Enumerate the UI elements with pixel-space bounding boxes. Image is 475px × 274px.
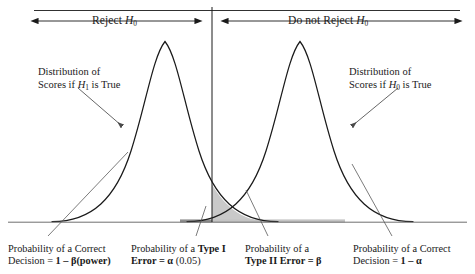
caption-power-pre: Decision = [8, 255, 56, 266]
null-distribution-label: Distribution of Scores if H0 is True [349, 66, 431, 92]
leader-alternative-distribution [78, 88, 122, 126]
leader-power-caption [48, 152, 128, 236]
caption-type-i-formula: Error = α [131, 255, 173, 266]
do-not-reject-label-text: Do not Reject [288, 14, 356, 26]
do-not-reject-region-label: Do not Reject H0 [288, 14, 368, 28]
reject-label-text: Reject [92, 14, 125, 26]
leader-null-distribution [352, 88, 398, 126]
beta-shaded-region-tail [197, 150, 272, 222]
alt-dist-line1: Distribution of [38, 66, 120, 79]
caption-confidence-line1: Probability of a Correct [353, 243, 451, 255]
caption-type-i-line2: Error = α (0.05) [131, 255, 226, 267]
leader-type-ii-caption [246, 190, 268, 236]
caption-type-i-value: (0.05) [173, 255, 200, 266]
null-dist-sub: 0 [396, 83, 400, 92]
caption-confidence: Probability of a Correct Decision = 1 – … [353, 243, 451, 268]
alternative-distribution-label: Distribution of Scores if H1 is True [38, 66, 120, 92]
caption-type-i-pre: Probability of a [131, 243, 198, 254]
caption-type-ii-error: Probability of a Type II Error = β [245, 243, 322, 268]
alt-dist-line2: Scores if H1 is True [38, 79, 120, 93]
caption-power-line2: Decision = 1 – β(power) [8, 255, 111, 267]
null-dist-line2: Scores if H0 is True [349, 79, 431, 93]
diagram-graphics [0, 0, 475, 274]
caption-type-ii-line2: Type II Error = β [245, 255, 322, 267]
alt-dist-line2-a: Scores if [38, 79, 78, 90]
caption-type-i-line1: Probability of a Type I [131, 243, 226, 255]
do-not-reject-label-h: H [356, 14, 364, 26]
caption-type-i-error: Probability of a Type I Error = α (0.05) [131, 243, 226, 268]
do-not-reject-label-sub: 0 [365, 19, 369, 28]
alt-dist-sub: 1 [85, 83, 89, 92]
alt-dist-line2-b: is True [89, 79, 121, 90]
caption-power: Probability of a Correct Decision = 1 – … [8, 243, 111, 268]
null-dist-line1: Distribution of [349, 66, 431, 79]
reject-region-label: Reject H0 [92, 14, 137, 28]
figure-canvas: Reject H0 Do not Reject H0 Distribution … [0, 0, 475, 274]
caption-power-formula: 1 – β(power) [56, 255, 111, 266]
leader-confidence-caption [352, 164, 392, 236]
caption-power-line1: Probability of a Correct [8, 243, 111, 255]
caption-confidence-line2: Decision = 1 – α [353, 255, 451, 267]
reject-label-sub: 0 [133, 19, 137, 28]
caption-type-ii-formula: Type II Error = β [245, 255, 322, 266]
caption-confidence-formula: 1 – α [401, 255, 422, 266]
caption-type-ii-line1: Probability of a [245, 243, 322, 255]
null-dist-line2-a: Scores if [349, 79, 389, 90]
null-dist-line2-b: is True [400, 79, 432, 90]
caption-type-i-name: Type I [198, 243, 226, 254]
caption-confidence-pre: Decision = [353, 255, 401, 266]
